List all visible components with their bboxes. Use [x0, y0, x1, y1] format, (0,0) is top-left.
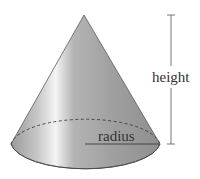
radius-label: radius — [98, 128, 135, 144]
height-label: height — [152, 69, 190, 85]
cone-diagram: radius height — [0, 0, 200, 179]
cone-body — [11, 15, 160, 169]
